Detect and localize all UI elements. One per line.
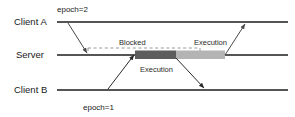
annotation-blocked: Blocked (119, 38, 146, 47)
execution-bar-second (176, 51, 225, 60)
lane-label-client-a: Client A (14, 16, 47, 27)
annotation-execution-below-server: Execution (140, 65, 173, 74)
execution-bar-first (135, 51, 176, 60)
diagram-canvas: Client A Server Client B Blocked Executi… (0, 0, 295, 117)
arrow-client-a-to-server (68, 23, 87, 53)
arrow-server-to-client-a (225, 24, 245, 55)
annotation-execution-server-right: Execution (194, 38, 227, 47)
arrow-client-b-to-server (108, 55, 134, 89)
lane-label-client-b: Client B (14, 84, 47, 95)
epoch-label-1: epoch=1 (83, 103, 114, 112)
lane-label-server: Server (16, 49, 44, 60)
epoch-label-2: epoch=2 (57, 5, 88, 14)
arrow-server-to-client-b (176, 58, 204, 88)
sequence-diagram: Client A Server Client B Blocked Executi… (0, 0, 295, 117)
